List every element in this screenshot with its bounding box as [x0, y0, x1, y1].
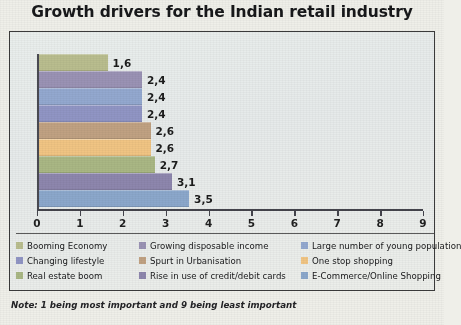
legend-swatch-icon — [16, 257, 23, 264]
legend-swatch-icon — [139, 257, 146, 264]
bar-row: 2,6 — [39, 139, 174, 156]
bar — [39, 71, 142, 88]
plot-area: 1,62,42,42,42,62,62,73,13,5 — [37, 54, 423, 209]
chart-frame: 1,62,42,42,42,62,62,73,13,5 0123456789 B… — [9, 31, 435, 291]
bar-value-label: 2,4 — [147, 108, 166, 120]
bar — [39, 122, 151, 139]
legend-label: Rise in use of credit/debit cards — [150, 271, 286, 281]
legend-item: Spurt in Urbanisation — [139, 256, 301, 266]
legend-label: One stop shopping — [312, 256, 393, 266]
x-axis-tick-label: 6 — [283, 217, 305, 229]
legend-item: Real estate boom — [16, 271, 139, 281]
legend-label: Booming Economy — [27, 241, 107, 251]
bar — [39, 156, 155, 173]
legend-item: One stop shopping — [301, 256, 434, 266]
legend-swatch-icon — [139, 242, 146, 249]
legend-swatch-icon — [301, 257, 308, 264]
bar — [39, 139, 151, 156]
x-axis-tick — [80, 211, 81, 216]
x-axis-tick — [380, 211, 381, 216]
bar-value-label: 3,1 — [177, 176, 196, 188]
legend-item: Changing lifestyle — [16, 256, 139, 266]
bar-row: 2,7 — [39, 156, 178, 173]
chart-title: Growth drivers for the Indian retail ind… — [0, 3, 444, 21]
bar-row: 2,6 — [39, 122, 174, 139]
chart-legend: Booming EconomyGrowing disposable income… — [16, 233, 434, 283]
bar-row: 1,6 — [39, 54, 131, 71]
legend-label: Spurt in Urbanisation — [150, 256, 241, 266]
legend-swatch-icon — [301, 272, 308, 279]
legend-row: Real estate boomRise in use of credit/de… — [16, 268, 434, 283]
bar-value-label: 2,6 — [156, 125, 175, 137]
bar-row: 3,1 — [39, 173, 196, 190]
legend-label: Large number of young population — [312, 241, 461, 251]
x-axis-tick-label: 0 — [26, 217, 48, 229]
bar-value-label: 2,6 — [156, 142, 175, 154]
legend-item: Large number of young population — [301, 241, 434, 251]
x-axis-tick — [423, 211, 424, 216]
chart-note: Note: 1 being most important and 9 being… — [11, 300, 296, 310]
legend-swatch-icon — [301, 242, 308, 249]
x-axis-line — [37, 209, 423, 211]
x-axis-tick-label: 4 — [198, 217, 220, 229]
bar-row: 2,4 — [39, 105, 166, 122]
bar-row: 2,4 — [39, 88, 166, 105]
legend-item: Booming Economy — [16, 241, 139, 251]
legend-row: Booming EconomyGrowing disposable income… — [16, 238, 434, 253]
bar — [39, 173, 172, 190]
legend-item: Growing disposable income — [139, 241, 301, 251]
x-axis-tick-label: 9 — [412, 217, 434, 229]
x-axis-tick — [251, 211, 252, 216]
bar — [39, 190, 189, 207]
legend-label: E-Commerce/Online Shopping — [312, 271, 441, 281]
bar-value-label: 2,4 — [147, 91, 166, 103]
legend-item: E-Commerce/Online Shopping — [301, 271, 434, 281]
x-axis: 0123456789 — [37, 209, 423, 235]
x-axis-tick-label: 3 — [155, 217, 177, 229]
x-axis-tick — [209, 211, 210, 216]
legend-label: Real estate boom — [27, 271, 102, 281]
x-axis-tick-label: 7 — [326, 217, 348, 229]
bar-row: 2,4 — [39, 71, 166, 88]
bar — [39, 54, 108, 71]
x-axis-tick — [123, 211, 124, 216]
legend-label: Growing disposable income — [150, 241, 268, 251]
x-axis-tick-label: 2 — [112, 217, 134, 229]
bar — [39, 105, 142, 122]
legend-row: Changing lifestyleSpurt in UrbanisationO… — [16, 253, 434, 268]
legend-swatch-icon — [139, 272, 146, 279]
bar-value-label: 3,5 — [194, 193, 213, 205]
legend-swatch-icon — [16, 242, 23, 249]
x-axis-tick — [337, 211, 338, 216]
legend-label: Changing lifestyle — [27, 256, 104, 266]
x-axis-tick — [166, 211, 167, 216]
bar-row: 3,5 — [39, 190, 213, 207]
x-axis-tick — [294, 211, 295, 216]
x-axis-tick-label: 5 — [240, 217, 262, 229]
x-axis-tick-label: 8 — [369, 217, 391, 229]
bar-value-label: 1,6 — [113, 57, 132, 69]
legend-item: Rise in use of credit/debit cards — [139, 271, 301, 281]
bar-value-label: 2,4 — [147, 74, 166, 86]
bar — [39, 88, 142, 105]
bar-value-label: 2,7 — [160, 159, 179, 171]
x-axis-tick-label: 1 — [69, 217, 91, 229]
legend-swatch-icon — [16, 272, 23, 279]
x-axis-tick — [37, 211, 38, 216]
